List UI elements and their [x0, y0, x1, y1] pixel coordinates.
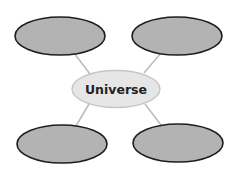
branch-node-bottom-left[interactable] [17, 125, 107, 163]
concept-web-diagram: Universe [0, 0, 236, 181]
connector-top-right [144, 54, 160, 73]
branch-node-top-right[interactable] [132, 17, 222, 55]
connector-bottom-right [145, 104, 161, 125]
center-node-label: Universe [85, 82, 147, 97]
connector-top-left [74, 53, 90, 74]
connector-bottom-left [76, 104, 89, 126]
branch-node-bottom-right[interactable] [133, 124, 223, 162]
branch-node-top-left[interactable] [15, 17, 105, 55]
